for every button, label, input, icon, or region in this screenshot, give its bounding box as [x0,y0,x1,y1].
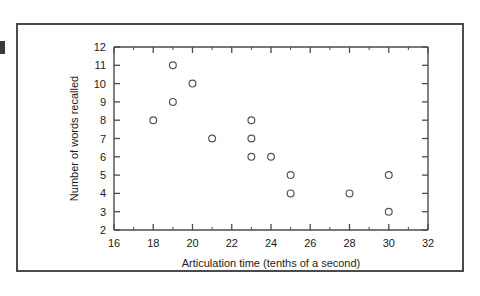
y-tick-label: 10 [94,78,106,90]
y-axis-ticks [114,47,428,230]
x-axis-tick-labels: 161820222426283032 [108,237,434,249]
x-tick-label: 20 [186,237,198,249]
plot-frame [114,47,428,230]
x-tick-label: 32 [422,237,434,249]
y-axis-title: Number of words recalled [68,76,80,201]
y-tick-label: 3 [100,206,106,218]
chart-canvas: 161820222426283032 23456789101112 Articu… [18,25,462,270]
x-tick-label: 30 [383,237,395,249]
y-tick-label: 11 [95,59,106,71]
y-tick-label: 9 [100,96,106,108]
x-tick-label: 26 [304,237,316,249]
scan-artifact [0,41,5,54]
data-point [346,190,353,197]
x-tick-label: 24 [265,237,277,249]
data-point [287,172,294,179]
data-point [169,62,176,69]
y-tick-label: 4 [100,187,106,199]
y-tick-label: 5 [100,169,106,181]
scatter-chart: 161820222426283032 23456789101112 Articu… [18,25,462,270]
x-tick-label: 18 [147,237,159,249]
data-point [268,153,275,160]
x-tick-label: 22 [226,237,238,249]
figure-frame: 161820222426283032 23456789101112 Articu… [16,23,464,272]
x-axis-title: Articulation time (tenths of a second) [182,257,361,269]
y-tick-label: 7 [100,133,106,145]
y-tick-label: 12 [94,41,106,53]
data-point [189,80,196,87]
y-tick-label: 8 [100,114,106,126]
data-point [248,153,255,160]
y-axis-tick-labels: 23456789101112 [94,41,106,236]
data-point [248,135,255,142]
x-axis-ticks [114,47,428,230]
x-tick-label: 16 [108,237,120,249]
data-point [209,135,216,142]
data-point [287,190,294,197]
data-point [385,208,392,215]
data-point [169,99,176,106]
y-tick-label: 6 [100,151,106,163]
y-tick-label: 2 [100,224,106,236]
data-point [150,117,157,124]
data-point [248,117,255,124]
x-tick-label: 28 [343,237,355,249]
data-point [385,172,392,179]
data-points [150,62,392,215]
